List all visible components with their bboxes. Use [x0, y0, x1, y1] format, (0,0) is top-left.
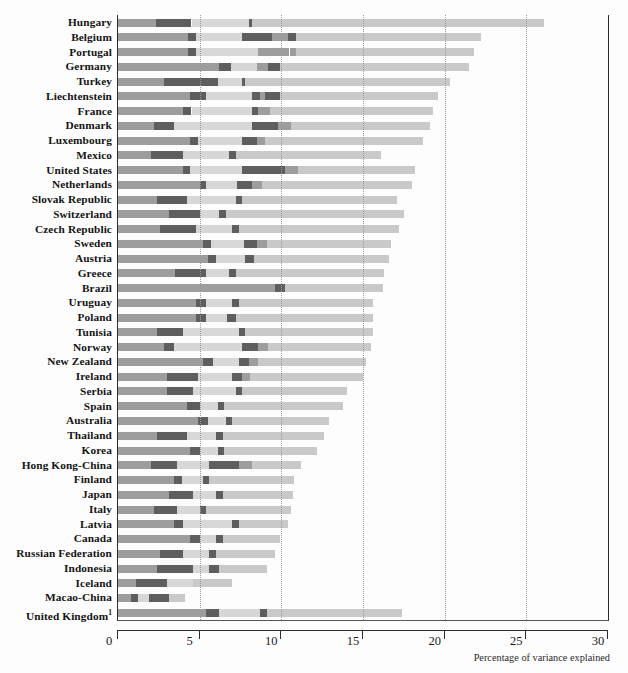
category-label-belgium: Belgium [0, 30, 112, 45]
category-label-hong-kong-china: Hong Kong-China [0, 458, 112, 473]
axis-baseline [117, 630, 607, 631]
bar-segment-medium [118, 432, 157, 440]
axis-tick-5 [199, 630, 200, 639]
bar-segment-lighter [196, 33, 242, 41]
bar-segment-dark [252, 92, 260, 100]
bar-segment-lighter [177, 506, 200, 514]
bar-segment-lighter [211, 240, 244, 248]
bar-segment-dark [219, 63, 230, 71]
category-label-iceland: Iceland [0, 576, 112, 591]
bar-segment-light [226, 210, 404, 218]
category-label-denmark: Denmark [0, 118, 112, 133]
category-label-latvia: Latvia [0, 517, 112, 532]
category-label-ireland: Ireland [0, 369, 112, 384]
category-label-sweden: Sweden [0, 236, 112, 251]
category-label-canada: Canada [0, 531, 112, 546]
bar-segment-medium [257, 63, 268, 71]
bar-segment-medium [118, 269, 175, 277]
bar-segment-light [268, 343, 371, 351]
bar-segment-medium [118, 447, 190, 455]
bar-segment-lighter [193, 491, 216, 499]
category-label-france: France [0, 104, 112, 119]
bar-segment-lighter [206, 314, 227, 322]
bar-segment-dark [227, 314, 235, 322]
bar-segment-medium [118, 373, 167, 381]
bar-segment-light [223, 432, 324, 440]
bar-segment-light [223, 535, 280, 543]
bar-segment-medium [118, 402, 187, 410]
bar-segment-medium [118, 78, 164, 86]
bar-segment-light [224, 402, 343, 410]
bar-segment-dark [209, 565, 219, 573]
bar-segment-dark [167, 373, 198, 381]
axis-tick-label-10: 10 [265, 634, 278, 649]
bar-segment-dark [151, 151, 184, 159]
gridline-15 [363, 15, 364, 620]
bar-segment-dark [196, 299, 206, 307]
bar-segment-medium [242, 373, 250, 381]
bar-segment-dark [190, 137, 198, 145]
bar-segment-dark [268, 63, 279, 71]
bar-segment-light [250, 373, 363, 381]
bar-segment-medium [118, 210, 169, 218]
category-label-norway: Norway [0, 340, 112, 355]
bar-segment-medium [118, 417, 198, 425]
bar-segment-dark [154, 506, 177, 514]
bar-segment-dark [275, 284, 285, 292]
bar-segment-lighter [174, 343, 243, 351]
bar-segment-light [245, 78, 449, 86]
bar-segment-medium [118, 181, 200, 189]
bar-segment-medium [118, 491, 169, 499]
bar-segment-medium [272, 33, 288, 41]
bar-segment-dark [157, 432, 186, 440]
bar-segment-light [252, 461, 301, 469]
bar-segment-lighter [198, 137, 242, 145]
bar-segment-medium [258, 107, 269, 115]
bar-segment-light [267, 240, 391, 248]
bar-segment-medium [118, 343, 164, 351]
bar-segment-lighter [198, 373, 232, 381]
bar-segment-light [280, 92, 438, 100]
bar-segment-light [224, 447, 317, 455]
gridline-10 [281, 15, 282, 620]
bar-segment-medium [118, 255, 208, 263]
bar-segment-medium [118, 19, 156, 27]
category-label-austria: Austria [0, 251, 112, 266]
bar-segment-lighter [200, 210, 220, 218]
bar-segment-lighter [187, 196, 236, 204]
category-label-poland: Poland [0, 310, 112, 325]
bar-segment-lighter [200, 447, 218, 455]
category-label-netherlands: Netherlands [0, 177, 112, 192]
bar-segment-dark [164, 343, 174, 351]
category-label-luxembourg: Luxembourg [0, 133, 112, 148]
bar-segment-light [242, 196, 397, 204]
bar-segment-dark [160, 225, 196, 233]
bar-segment-dark [174, 476, 182, 484]
bar-segment-light [280, 63, 469, 71]
bar-segment-medium [239, 461, 252, 469]
bar-segment-dark [160, 550, 183, 558]
category-label-new-zealand: New Zealand [0, 354, 112, 369]
bar-segment-dark [206, 609, 219, 617]
bar-segment-medium [118, 609, 206, 617]
bar-segment-medium [118, 284, 275, 292]
axis-tick-20 [444, 630, 445, 639]
category-label-czech-republic: Czech Republic [0, 222, 112, 237]
bar-segment-lighter [193, 565, 209, 573]
bar-segment-dark [188, 48, 196, 56]
bar-segment-medium [118, 550, 160, 558]
category-label-macao-china: Macao-China [0, 590, 112, 605]
category-label-serbia: Serbia [0, 384, 112, 399]
bar-segment-light [285, 284, 383, 292]
bar-segment-medium [118, 461, 151, 469]
bar-segment-lighter [208, 417, 226, 425]
axis-tick-label-25: 25 [510, 634, 523, 649]
bar-segment-lighter [174, 122, 252, 130]
bar-segment-light [270, 107, 433, 115]
bar-segment-medium [118, 328, 157, 336]
bar-segment-lighter [196, 48, 258, 56]
bar-segment-light [169, 594, 185, 602]
category-label-spain: Spain [0, 399, 112, 414]
gridline-25 [526, 15, 527, 620]
bar-segment-dark [175, 269, 206, 277]
